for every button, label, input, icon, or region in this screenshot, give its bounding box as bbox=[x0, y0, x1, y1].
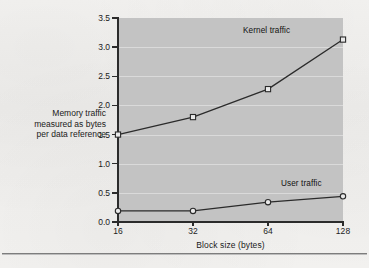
gridline bbox=[118, 105, 343, 106]
y-tick-label: 0.5 bbox=[82, 188, 110, 198]
x-tick-label: 32 bbox=[188, 226, 198, 236]
y-axis-line bbox=[117, 17, 119, 223]
y-tick-mark bbox=[112, 134, 117, 135]
gridline bbox=[118, 76, 343, 77]
gridline bbox=[118, 193, 343, 194]
y-tick-mark bbox=[112, 163, 117, 164]
x-tick-label: 64 bbox=[263, 226, 273, 236]
y-axis-title: Memory trafficmeasured as bytesper data … bbox=[6, 108, 106, 140]
y-axis-title-line: per data reference bbox=[6, 129, 106, 140]
user-traffic-annotation: User traffic bbox=[281, 179, 322, 188]
y-tick-mark bbox=[112, 17, 117, 18]
page-divider-rule-shadow bbox=[2, 254, 367, 255]
kernel-traffic-annotation: Kernel traffic bbox=[243, 26, 290, 35]
x-axis-line bbox=[117, 221, 344, 223]
plot-area bbox=[118, 18, 343, 222]
y-tick-label: 2.5 bbox=[82, 71, 110, 81]
x-axis-title: Block size (bytes) bbox=[118, 240, 343, 250]
y-tick-mark bbox=[112, 221, 117, 222]
x-tick-label: 128 bbox=[336, 226, 350, 236]
gridline bbox=[118, 47, 343, 48]
y-tick-label: 1.0 bbox=[82, 159, 110, 169]
y-tick-mark bbox=[112, 105, 117, 106]
y-axis-title-line: measured as bytes bbox=[6, 119, 106, 130]
gridline bbox=[118, 135, 343, 136]
y-tick-mark bbox=[112, 192, 117, 193]
chart-figure: 0.00.51.01.52.02.53.03.5 163264128 Memor… bbox=[0, 0, 369, 268]
x-tick-label: 16 bbox=[113, 226, 123, 236]
y-tick-label: 3.5 bbox=[82, 13, 110, 23]
y-tick-label: 0.0 bbox=[82, 217, 110, 227]
y-tick-mark bbox=[112, 46, 117, 47]
y-axis-title-line: Memory traffic bbox=[6, 108, 106, 119]
y-tick-label: 3.0 bbox=[82, 42, 110, 52]
y-tick-mark bbox=[112, 76, 117, 77]
gridline bbox=[118, 164, 343, 165]
